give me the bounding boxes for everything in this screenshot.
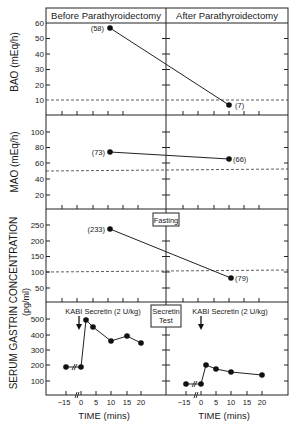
xlabel-before: TIME (mins) <box>78 410 130 421</box>
secretin-ytick: 300 <box>31 346 45 355</box>
fasting-label-before: (233) <box>87 225 105 234</box>
col-header-after: After Parathyroidectomy <box>176 10 278 21</box>
secretin-before-point <box>78 364 84 370</box>
secretin-before-point <box>63 364 69 370</box>
gastric-secretion-chart: Before Parathyroidectomy After Parathyro… <box>0 0 301 424</box>
injection-arrow-icon <box>198 316 204 330</box>
xtick-after: 10 <box>227 398 235 407</box>
xtick-before: 15 <box>123 398 131 407</box>
secretin-ytick: 500 <box>31 315 45 324</box>
mao-reference-line <box>46 169 288 171</box>
bao-ytick: 60 <box>35 19 44 28</box>
secretin-ytick: 400 <box>31 331 45 340</box>
fasting-ytick: 100 <box>31 268 45 277</box>
secretin-after-point <box>259 372 265 378</box>
bao-ytick: 20 <box>35 81 44 90</box>
bao-panel: 60 50 40 30 20 10 (58) (7) BAO (mEq/h) <box>9 19 288 115</box>
mao-panel: 100 80 60 40 20 (73) (66) MAO (mEq/h) <box>9 128 288 209</box>
xtick-after: −15 <box>178 398 191 407</box>
bao-point-after <box>226 102 232 108</box>
bao-point-before <box>107 25 113 31</box>
kabi-label-before: KABI Secretin (2 U/kg) <box>65 307 141 316</box>
fasting-label-after: (79) <box>235 274 249 283</box>
bao-ytick: 10 <box>35 96 44 105</box>
fasting-label: Fasting <box>154 216 179 225</box>
xtick-before: 10 <box>107 398 115 407</box>
mao-trend-line <box>110 152 229 159</box>
mao-point-after <box>226 156 232 162</box>
secretin-after-point <box>183 381 189 387</box>
xtick-before: 0 <box>79 398 83 407</box>
fasting-trend-line <box>110 229 231 278</box>
secretin-before-point <box>83 317 89 323</box>
fasting-ytick: 250 <box>31 221 45 230</box>
xlabel-after: TIME (mins) <box>198 410 250 421</box>
mao-ytick: 20 <box>35 191 44 200</box>
fasting-ytick: 150 <box>31 252 45 261</box>
secretin-after-point <box>203 362 209 368</box>
xtick-before: 20 <box>137 398 145 407</box>
mao-ytick: 80 <box>35 143 44 152</box>
secretin-before-point <box>108 338 114 344</box>
bao-trend-line <box>110 28 229 105</box>
secretin-before-point <box>124 333 130 339</box>
bao-ytick: 50 <box>35 34 44 43</box>
secretin-ytick: 100 <box>31 377 45 386</box>
fasting-ytick: 200 <box>31 237 45 246</box>
xtick-after: 20 <box>258 398 266 407</box>
xtick-before: 5 <box>94 398 98 407</box>
xtick-after: 0 <box>199 398 203 407</box>
fasting-point-after <box>228 275 234 281</box>
bao-label-after: (7) <box>235 101 245 110</box>
fasting-point-before <box>107 226 113 232</box>
mao-label-before: (73) <box>92 148 106 157</box>
mao-ytick: 100 <box>31 128 45 137</box>
secretin-before-point <box>90 324 96 330</box>
col-header-before: Before Parathyroidectomy <box>51 10 161 21</box>
secretin-test-label-1: Secretin <box>152 307 180 316</box>
mao-ytick: 60 <box>35 159 44 168</box>
kabi-label-after: KABI Secretin (2 U/kg) <box>192 307 268 316</box>
frame <box>46 8 288 395</box>
fasting-ytick: 50 <box>35 284 44 293</box>
secretin-ytick: 200 <box>31 361 45 370</box>
mao-ytick: 40 <box>35 175 44 184</box>
mao-point-before <box>107 149 113 155</box>
mao-label-after: (66) <box>233 155 247 164</box>
xtick-after: 15 <box>243 398 251 407</box>
bao-ytick: 30 <box>35 65 44 74</box>
secretin-before-point <box>138 340 144 346</box>
axis-break-icon <box>72 364 79 398</box>
xtick-before: −15 <box>58 398 71 407</box>
secretin-after-point <box>228 369 234 375</box>
bao-label-before: (58) <box>91 24 105 33</box>
secretin-after-point <box>213 366 219 372</box>
secretin-test-label-2: Test <box>159 316 174 325</box>
fasting-panel: 250 200 150 100 50 Fasting (233) (79) <box>31 213 288 302</box>
secretin-panel: 500 400 300 200 100 Secretin Test KABI S… <box>31 305 288 398</box>
gastrin-ylabel: SERUM GASTRIN CONCENTRATION <box>8 217 19 390</box>
xtick-after: 5 <box>214 398 218 407</box>
injection-arrow-icon <box>76 316 82 330</box>
secretin-after-point <box>198 381 204 387</box>
bao-ytick: 40 <box>35 50 44 59</box>
mao-ylabel: MAO (mEq/h) <box>9 131 20 192</box>
gastrin-units: (pg/ml) <box>21 288 31 316</box>
bao-ylabel: BAO (mEq/h) <box>9 32 20 91</box>
